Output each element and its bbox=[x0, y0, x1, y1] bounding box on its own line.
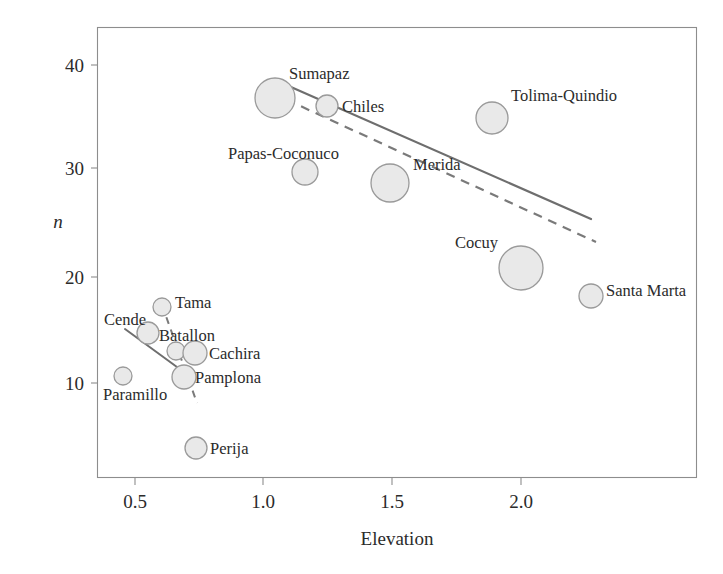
label-merida: Merida bbox=[413, 155, 461, 174]
scatter-plot-figure: 40 30 20 10 0.5 1.0 1.5 2.0 Elevation n bbox=[0, 0, 723, 574]
plot-canvas: 40 30 20 10 0.5 1.0 1.5 2.0 Elevation n bbox=[0, 0, 723, 574]
bubble-cocuy[interactable] bbox=[499, 246, 543, 290]
label-cachira: Cachira bbox=[209, 344, 261, 363]
x-axis-title: Elevation bbox=[361, 528, 434, 549]
y-axis-ticks bbox=[91, 65, 97, 383]
x-tick-label-1-5: 1.5 bbox=[380, 491, 404, 512]
y-tick-label-20: 20 bbox=[65, 267, 84, 288]
x-axis-tick-labels: 0.5 1.0 1.5 2.0 bbox=[123, 491, 533, 512]
label-paramillo: Paramillo bbox=[103, 385, 167, 404]
label-tama: Tama bbox=[175, 293, 212, 312]
data-points bbox=[114, 78, 603, 459]
y-tick-label-10: 10 bbox=[65, 373, 84, 394]
label-papas-coconuco: Papas-Coconuco bbox=[228, 144, 339, 163]
x-axis-ticks bbox=[135, 478, 521, 485]
y-axis-title: n bbox=[53, 211, 63, 232]
label-pamplona: Pamplona bbox=[195, 368, 262, 387]
data-point-labels: Sumapaz Chiles Tolima-Quindio Papas-Coco… bbox=[103, 64, 687, 458]
bubble-pamplona[interactable] bbox=[172, 365, 196, 389]
y-tick-label-30: 30 bbox=[65, 158, 84, 179]
label-chiles: Chiles bbox=[342, 97, 384, 116]
x-tick-label-0-5: 0.5 bbox=[123, 491, 147, 512]
bubble-sumapaz[interactable] bbox=[255, 78, 295, 118]
bubble-tolima-quindio[interactable] bbox=[476, 102, 508, 134]
label-santa-marta: Santa Marta bbox=[606, 281, 687, 300]
label-cende: Cende bbox=[104, 310, 146, 329]
label-tolima-quindio: Tolima-Quindio bbox=[511, 86, 617, 105]
y-tick-label-40: 40 bbox=[65, 55, 84, 76]
bubble-tama[interactable] bbox=[153, 298, 171, 316]
label-sumapaz: Sumapaz bbox=[289, 64, 349, 83]
x-tick-label-1-0: 1.0 bbox=[251, 491, 275, 512]
label-perija: Perija bbox=[210, 439, 249, 458]
y-axis-tick-labels: 40 30 20 10 bbox=[65, 55, 84, 394]
bubble-chiles[interactable] bbox=[316, 95, 338, 117]
bubble-santa-marta[interactable] bbox=[579, 284, 603, 308]
bubble-paramillo[interactable] bbox=[114, 367, 132, 385]
bubble-merida[interactable] bbox=[371, 164, 409, 202]
bubble-perija[interactable] bbox=[185, 437, 207, 459]
label-cocuy: Cocuy bbox=[455, 233, 499, 252]
label-batallon: Batallon bbox=[159, 326, 215, 345]
x-tick-label-2-0: 2.0 bbox=[509, 491, 533, 512]
